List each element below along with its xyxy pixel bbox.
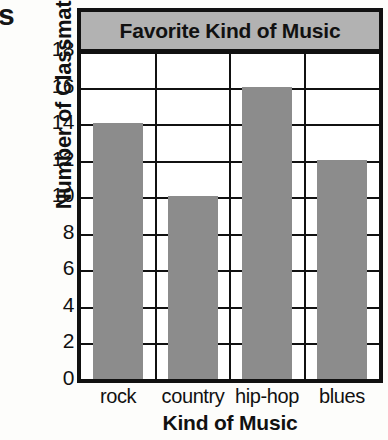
bar-rock — [93, 123, 143, 379]
y-tick-label: 16 — [52, 74, 74, 95]
x-tick-label-blues: blues — [319, 385, 365, 408]
y-tick-label: 4 — [63, 293, 74, 314]
y-tick-label: 10 — [52, 184, 74, 205]
chart-title: Favorite Kind of Music — [120, 19, 341, 43]
bar-hip-hop — [242, 87, 292, 379]
chart-frame: Favorite Kind of Music — [77, 8, 383, 383]
chart-title-band: Favorite Kind of Music — [81, 12, 379, 52]
y-tick-label: 8 — [63, 220, 74, 241]
bar-country — [168, 196, 218, 379]
page-bleed-text-fragment: s — [0, 0, 14, 32]
gridline-vertical — [304, 52, 306, 379]
x-axis-title: Kind of Music — [77, 411, 383, 435]
x-axis-category-labels: rockcountryhip-hopblues — [77, 385, 383, 409]
x-tick-label-country: country — [162, 385, 225, 408]
y-tick-label: 14 — [52, 111, 74, 132]
gridline-vertical — [155, 52, 157, 379]
bar-blues — [317, 160, 367, 379]
y-tick-label: 2 — [63, 330, 74, 351]
x-tick-label-rock: rock — [100, 385, 136, 408]
y-tick-label: 18 — [52, 38, 74, 59]
x-tick-label-hip-hop: hip-hop — [235, 385, 299, 408]
y-tick-label: 12 — [52, 147, 74, 168]
plot-area — [81, 52, 379, 379]
y-tick-label: 6 — [63, 257, 74, 278]
gridline-vertical — [229, 52, 231, 379]
y-axis-tick-labels: 181614121086420 — [36, 0, 74, 440]
y-tick-label: 0 — [63, 367, 74, 388]
